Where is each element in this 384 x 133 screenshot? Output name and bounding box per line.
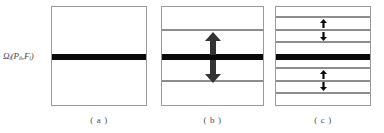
panel-c-caption: ( c ) [275,113,371,127]
panel-b [161,6,264,106]
gray-line-2 [276,29,370,31]
central-black-band [276,54,370,60]
gray-line-4 [276,67,370,69]
gray-line-1 [276,16,370,18]
panel-a [51,6,147,106]
axis-label-close: ) [31,51,34,61]
figure-container: Ωi(Pii,Fi) ( a ) ( b ) ( c ) [0,0,384,133]
panel-b-caption: ( b ) [161,113,264,127]
small-up-arrow-1 [320,19,327,28]
gray-line-6 [276,92,370,94]
upper-gray-line [162,29,263,31]
small-up-arrow-2 [320,70,327,79]
panel-c [275,6,371,106]
gray-line-3 [276,41,370,43]
down-block-arrow [205,60,221,83]
small-down-arrow-1 [320,32,327,41]
omega-axis-label: Ωi(Pii,Fi) [3,51,47,62]
panel-a-caption: ( a ) [51,113,147,127]
small-down-arrow-2 [320,82,327,91]
central-black-band [52,54,146,60]
up-block-arrow [205,32,221,55]
axis-label-open: (P [11,51,19,61]
gray-line-5 [276,80,370,82]
